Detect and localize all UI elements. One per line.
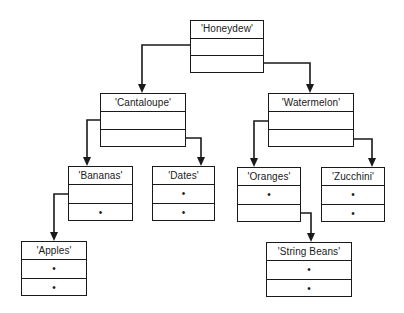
left-pointer: • [322, 186, 384, 204]
node-key: 'Apples' [22, 242, 86, 260]
left-pointer: • [238, 186, 300, 204]
left-pointer: • [22, 260, 86, 278]
right-pointer [238, 205, 300, 223]
left-pointer: • [153, 185, 214, 203]
left-pointer: • [267, 261, 351, 279]
tree-diagram: 'Honeydew' 'Cantaloupe' 'Watermelon' 'Ba… [0, 0, 404, 313]
node-watermelon: 'Watermelon' [268, 93, 354, 147]
node-string-beans: 'String Beans' • • [266, 242, 352, 297]
arrowhead-icon [368, 158, 376, 167]
node-dates: 'Dates' • • [152, 166, 215, 221]
node-key: 'String Beans' [267, 243, 351, 261]
arrowhead-icon [250, 158, 258, 167]
arrowhead-icon [197, 157, 205, 166]
node-key: 'Dates' [153, 167, 214, 185]
node-key: 'Oranges' [238, 168, 300, 186]
right-pointer: • [22, 279, 86, 297]
node-key: 'Watermelon' [269, 94, 353, 112]
node-key: 'Zucchini' [322, 168, 384, 186]
arrowhead-icon [307, 233, 315, 242]
left-pointer [69, 185, 132, 203]
node-apples: 'Apples' • • [21, 241, 87, 296]
arrowhead-icon [138, 84, 146, 93]
right-pointer [191, 56, 263, 74]
node-honeydew: 'Honeydew' [190, 20, 264, 73]
arrowhead-icon [83, 157, 91, 166]
node-bananas: 'Bananas' • [68, 166, 133, 221]
node-oranges: 'Oranges' • [237, 167, 301, 222]
right-pointer: • [267, 280, 351, 298]
node-zucchini: 'Zucchini' • • [321, 167, 385, 222]
right-pointer: • [322, 205, 384, 223]
node-key: 'Bananas' [69, 167, 132, 185]
arrowhead-icon [50, 232, 58, 241]
node-key: 'Honeydew' [191, 21, 263, 39]
node-cantaloupe: 'Cantaloupe' [100, 93, 186, 147]
left-pointer [269, 112, 353, 130]
right-pointer [101, 130, 185, 148]
node-key: 'Cantaloupe' [101, 94, 185, 112]
right-pointer: • [69, 204, 132, 222]
left-pointer [191, 39, 263, 57]
right-pointer [269, 130, 353, 148]
left-pointer [101, 112, 185, 130]
arrowhead-icon [306, 84, 314, 93]
right-pointer: • [153, 204, 214, 222]
